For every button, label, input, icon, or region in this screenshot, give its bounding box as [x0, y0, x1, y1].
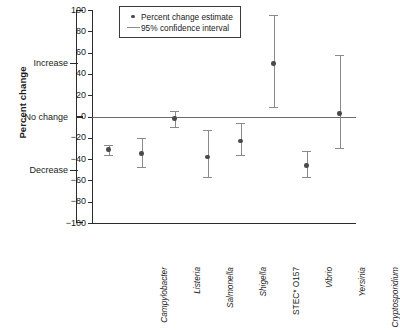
category-label: Vibrio — [324, 267, 334, 331]
legend-item-ci: 95% confidence interval — [125, 22, 233, 33]
confidence-interval-cap — [335, 148, 344, 149]
y-tick-label: −100 — [60, 219, 86, 228]
estimate-point — [139, 151, 144, 156]
confidence-interval-cap — [236, 155, 245, 156]
category-label: Campylobacter — [159, 267, 169, 331]
estimate-point — [271, 61, 276, 66]
y-tick-label: 60 — [60, 48, 86, 57]
estimate-point — [172, 116, 177, 121]
legend-label-ci: 95% confidence interval — [141, 23, 229, 33]
category-label: Yersinia — [357, 267, 367, 331]
y-tick-label: −40 — [60, 155, 86, 164]
confidence-interval-cap — [269, 107, 278, 108]
y-tick-label: −20 — [60, 133, 86, 142]
chart-legend: Percent change estimate 95% confidence i… — [119, 6, 241, 38]
confidence-interval-cap — [137, 138, 146, 139]
confidence-interval-cap — [236, 123, 245, 124]
qualitative-label: Increase — [33, 58, 68, 68]
x-axis-line — [92, 223, 356, 224]
confidence-interval-bar — [340, 55, 341, 149]
estimate-point — [238, 139, 243, 144]
category-label: Shigella — [258, 267, 268, 331]
legend-item-estimate: Percent change estimate — [125, 11, 233, 22]
qualitative-label: Decrease — [29, 165, 68, 175]
y-tick-label: −80 — [60, 197, 86, 206]
y-tick-label: 40 — [60, 69, 86, 78]
confidence-interval-cap — [203, 177, 212, 178]
category-label: Cryptosporidium — [390, 267, 400, 331]
category-label: Salmonella — [225, 267, 235, 331]
estimate-point — [304, 163, 309, 168]
zero-reference-line — [92, 117, 356, 118]
y-tick-label: −60 — [60, 176, 86, 185]
confidence-interval-cap — [302, 151, 311, 152]
confidence-interval-cap — [302, 177, 311, 178]
confidence-interval-cap — [203, 130, 212, 131]
y-tick-label: 100 — [60, 6, 86, 15]
category-label: Listeria — [192, 267, 202, 331]
bracket-tick — [70, 63, 78, 64]
estimate-point — [205, 155, 210, 160]
category-label: STEC* O157 — [291, 267, 301, 331]
confidence-interval-bar — [208, 130, 209, 177]
y-axis-title: Percent change — [17, 43, 28, 163]
confidence-interval-cap — [170, 127, 179, 128]
confidence-interval-cap — [104, 155, 113, 156]
estimate-point — [337, 111, 342, 116]
dot-marker-icon — [125, 15, 141, 19]
y-tick-label: 80 — [60, 27, 86, 36]
confidence-interval-cap — [104, 145, 113, 146]
confidence-interval-cap — [137, 167, 146, 168]
y-tick-label: 0 — [60, 112, 86, 121]
confidence-interval-cap — [269, 15, 278, 16]
confidence-interval-cap — [170, 111, 179, 112]
line-marker-icon — [125, 27, 141, 28]
bracket-tick — [70, 170, 78, 171]
estimate-point — [106, 147, 111, 152]
legend-label-estimate: Percent change estimate — [141, 12, 233, 22]
confidence-interval-cap — [335, 55, 344, 56]
y-tick-label: 20 — [60, 91, 86, 100]
